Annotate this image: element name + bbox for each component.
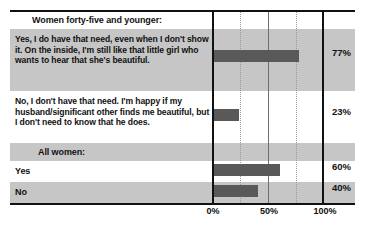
bottom-rule [10, 203, 355, 205]
group-header-label-all: All women: [38, 147, 218, 158]
answer-label-yes-all: Yes [15, 166, 210, 177]
value-label-no-all: 40% [332, 182, 362, 193]
value-label-yes-young: 77% [332, 47, 362, 58]
tick-label-50: 50% [260, 206, 278, 216]
bar-no-young [214, 109, 239, 121]
bar-yes-all [214, 164, 280, 176]
x-axis-tick-labels: 0% 50% 100% [10, 206, 355, 220]
value-label-yes-all: 60% [332, 161, 362, 172]
gridline-75 [296, 12, 297, 203]
answer-label-no-all: No [15, 187, 210, 198]
gridline-100 [322, 12, 324, 203]
bar-yes-young [214, 50, 299, 62]
bar-no-all [214, 185, 258, 197]
chart-container: Women forty-five and younger: Yes, I do … [10, 10, 355, 205]
tick-label-100: 100% [313, 206, 336, 216]
group-header-label-young: Women forty-five and younger: [32, 15, 217, 26]
plot-area [212, 12, 330, 203]
value-label-no-young: 23% [332, 106, 362, 117]
answer-label-no-young: No, I don't have that need. I'm happy if… [15, 96, 210, 128]
answer-label-yes-young: Yes, I do have that need, even when I do… [15, 34, 210, 66]
tick-label-0: 0% [206, 206, 219, 216]
